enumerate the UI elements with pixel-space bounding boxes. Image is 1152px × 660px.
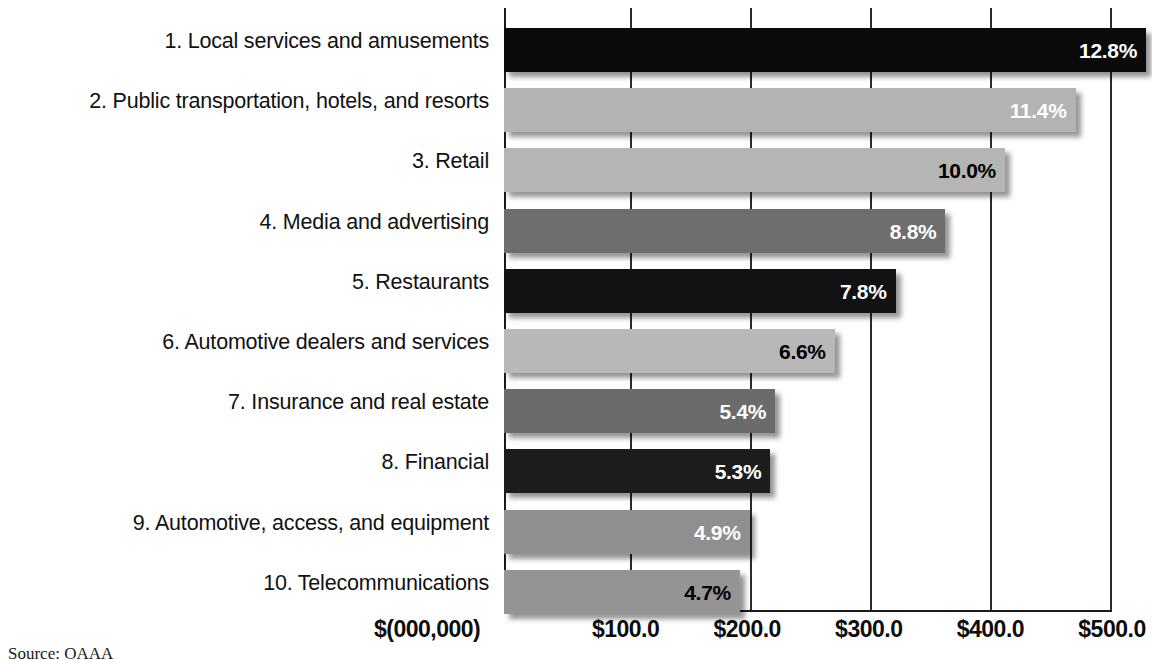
category-label: 10. Telecommunications: [263, 573, 489, 595]
bar[interactable]: 7.8%: [504, 269, 896, 313]
value-axis-tick-labels: $100.0$200.0$300.0$400.0$500.0: [0, 618, 1152, 652]
bar-value-label: 11.4%: [1010, 100, 1067, 121]
bar[interactable]: 5.4%: [504, 389, 775, 433]
value-axis-tick: $100.0: [592, 618, 659, 641]
bar[interactable]: 5.3%: [504, 449, 770, 493]
category-label: 2. Public transportation, hotels, and re…: [89, 91, 489, 113]
category-label: 7. Insurance and real estate: [228, 392, 489, 414]
bar-series: 12.8%11.4%10.0%8.8%7.8%6.6%5.4%5.3%4.9%4…: [504, 8, 1152, 612]
bar-value-label: 10.0%: [938, 160, 996, 181]
value-axis-tick: $400.0: [957, 618, 1024, 641]
horizontal-bar-chart: 1. Local services and amusements2. Publi…: [0, 0, 1152, 660]
bar-value-label: 8.8%: [890, 220, 937, 241]
value-axis-tick: $500.0: [1078, 618, 1145, 641]
bar-value-label: 6.6%: [779, 341, 826, 362]
category-label: 3. Retail: [412, 151, 489, 173]
bar[interactable]: 10.0%: [504, 148, 1005, 192]
bar-value-label: 5.3%: [715, 461, 762, 482]
bar[interactable]: 6.6%: [504, 329, 835, 373]
category-axis-labels: 1. Local services and amusements2. Publi…: [0, 0, 497, 612]
bar[interactable]: 12.8%: [504, 28, 1146, 72]
bar-value-label: 4.9%: [694, 521, 741, 542]
value-axis-tick: $300.0: [835, 618, 902, 641]
category-label: 8. Financial: [381, 452, 489, 474]
bar-value-label: 7.8%: [840, 280, 887, 301]
bar[interactable]: 4.9%: [504, 510, 750, 554]
bar-value-label: 5.4%: [719, 401, 766, 422]
bar[interactable]: 4.7%: [504, 570, 740, 614]
category-label: 9. Automotive, access, and equipment: [133, 513, 489, 535]
source-note: Source: OAAA: [8, 645, 113, 660]
bar-value-label: 4.7%: [684, 581, 731, 602]
value-axis-tick: $200.0: [714, 618, 781, 641]
bar[interactable]: 11.4%: [504, 88, 1076, 132]
category-label: 4. Media and advertising: [260, 212, 489, 234]
category-label: 6. Automotive dealers and services: [162, 332, 489, 354]
value-axis-unit-label: $(000,000): [374, 618, 480, 641]
category-label: 1. Local services and amusements: [164, 31, 489, 53]
category-label: 5. Restaurants: [352, 272, 489, 294]
bar[interactable]: 8.8%: [504, 209, 945, 253]
bar-value-label: 12.8%: [1079, 40, 1137, 61]
